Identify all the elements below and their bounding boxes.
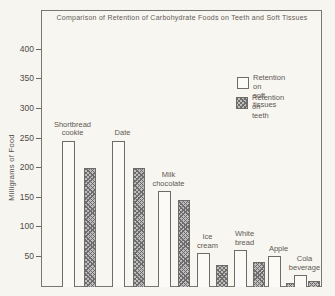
category-label-milk-chocolate: Milkchocolate xyxy=(137,171,201,188)
legend-label-teeth: Retention on teeth xyxy=(252,93,284,120)
y-tick-label-100: 100 xyxy=(12,222,34,231)
category-label-cola-beverage: Colabeverage xyxy=(273,255,335,272)
bar-soft-tissues-milk-chocolate xyxy=(158,191,171,287)
bar-teeth-cola-beverage xyxy=(308,281,320,287)
y-tick-label-250: 250 xyxy=(12,134,34,143)
bar-soft-tissues-cola-beverage xyxy=(294,275,307,287)
y-tick-50 xyxy=(36,256,41,257)
legend-swatch-soft-tissues xyxy=(237,77,249,89)
y-tick-200 xyxy=(36,167,41,168)
y-tick-label-300: 300 xyxy=(12,104,34,113)
bar-soft-tissues-ice-cream xyxy=(197,253,210,287)
bar-soft-tissues-shortbread-cookie xyxy=(62,141,75,287)
bar-soft-tissues-white-bread xyxy=(234,250,247,287)
y-tick-100 xyxy=(36,226,41,227)
figure: Comparison of Retention of Carbohydrate … xyxy=(0,0,335,296)
bar-teeth-shortbread-cookie xyxy=(84,168,96,287)
y-tick-label-50: 50 xyxy=(12,252,34,261)
y-tick-350 xyxy=(36,78,41,79)
y-tick-label-150: 150 xyxy=(12,193,34,202)
y-tick-400 xyxy=(36,49,41,50)
y-tick-label-200: 200 xyxy=(12,163,34,172)
y-tick-label-400: 400 xyxy=(12,45,34,54)
legend-swatch-teeth xyxy=(236,97,248,109)
bar-soft-tissues-date xyxy=(112,141,125,287)
chart-title: Comparison of Retention of Carbohydrate … xyxy=(46,14,318,21)
y-tick-150 xyxy=(36,197,41,198)
category-label-apple: Apple xyxy=(247,245,311,254)
category-label-date: Date xyxy=(91,129,155,138)
bar-teeth-white-bread xyxy=(253,262,265,287)
y-tick-label-350: 350 xyxy=(12,74,34,83)
y-tick-300 xyxy=(36,108,41,109)
bar-teeth-ice-cream xyxy=(216,265,228,287)
